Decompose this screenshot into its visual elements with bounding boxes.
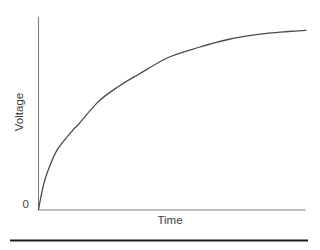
origin-tick-label: 0 xyxy=(23,198,29,210)
x-axis-label: Time xyxy=(157,214,182,226)
voltage-curve xyxy=(39,30,307,209)
voltage-time-figure: 0 Voltage Time xyxy=(0,0,320,250)
chart-svg: 0 Voltage Time xyxy=(0,0,320,250)
y-axis-label: Voltage xyxy=(13,93,25,131)
